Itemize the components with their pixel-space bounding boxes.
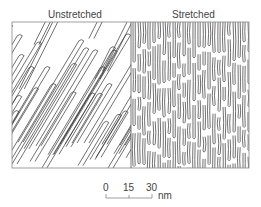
scale-tick-30: 30 xyxy=(146,182,157,193)
figure-frame xyxy=(12,22,249,168)
scale-tick-15: 15 xyxy=(123,182,134,193)
scale-unit: nm xyxy=(158,190,172,201)
scale-tick-0: 0 xyxy=(103,182,109,193)
stretched-panel xyxy=(132,22,250,203)
scale-bar xyxy=(106,194,152,198)
stripe-pattern-figure xyxy=(0,0,261,207)
unstretched-panel xyxy=(0,0,261,168)
